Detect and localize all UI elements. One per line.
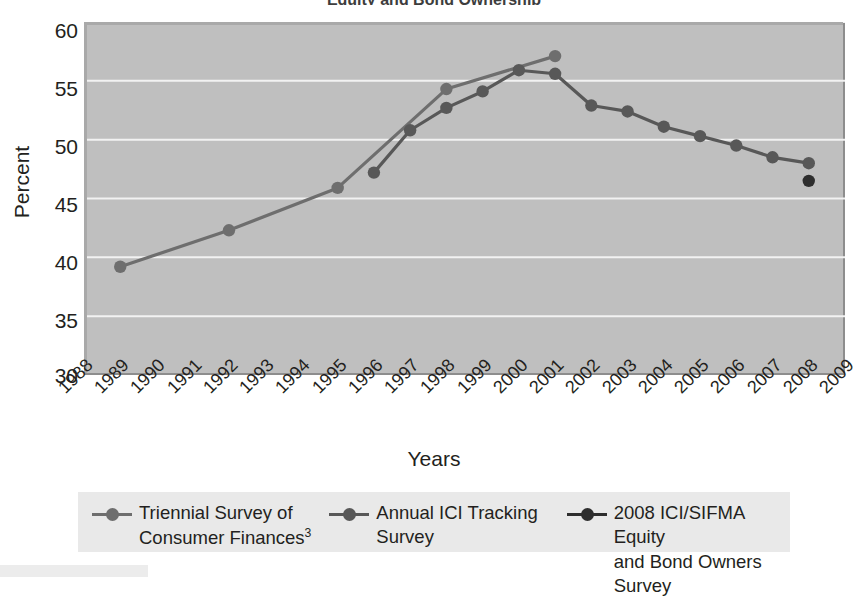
legend-dot-1: [343, 508, 356, 521]
data-point: [803, 157, 815, 169]
legend-label-2-line1: 2008 ICI/SIFMA Equity: [614, 502, 745, 547]
legend-marker-icon-1: [329, 503, 369, 525]
x-axis-title: Years: [0, 447, 868, 471]
data-point: [694, 130, 706, 142]
legend-dot-2: [581, 508, 594, 521]
plot-canvas: [84, 22, 845, 375]
data-point: [766, 151, 778, 163]
legend-item-triennial-survey[interactable]: Triennial Survey of Consumer Finances3: [78, 501, 315, 551]
legend-dot-0: [106, 508, 119, 521]
legend-label-1-line2: Survey: [376, 526, 434, 547]
x-axis: 1988198919901991199219931994199519961997…: [0, 378, 868, 444]
data-point: [223, 224, 235, 236]
legend-label-2-line2: and Bond Owners Survey: [614, 551, 762, 596]
y-tick-60: 60: [30, 20, 78, 41]
y-tick-55: 55: [30, 78, 78, 99]
chart-title: Equity and Bond Ownership: [0, 0, 868, 5]
data-point: [658, 121, 670, 133]
data-point: [331, 182, 343, 194]
data-point: [114, 261, 126, 273]
data-point: [549, 68, 561, 80]
y-axis-title: Percent: [10, 122, 34, 242]
y-axis: 60 55 50 45 40 35 30: [30, 0, 78, 577]
gridlines: [84, 22, 845, 316]
legend-label-1-line1: Annual ICI Tracking: [376, 502, 537, 523]
page-edge-artifact: [0, 565, 148, 577]
legend-label-0-line1: Triennial Survey of: [139, 502, 293, 523]
data-point: [368, 166, 380, 178]
y-tick-50: 50: [30, 136, 78, 157]
series-2: [803, 175, 815, 187]
legend-label-0-line2: Consumer Finances: [139, 528, 305, 549]
data-point: [513, 64, 525, 76]
series-layer: [114, 50, 815, 273]
legend-label-1: Annual ICI Tracking Survey: [376, 501, 537, 550]
y-tick-35: 35: [30, 310, 78, 331]
legend-marker-icon-0: [92, 503, 132, 525]
data-point: [621, 105, 633, 117]
legend-label-0-superscript: 3: [305, 526, 312, 540]
data-point: [476, 85, 488, 97]
data-point: [549, 50, 561, 62]
data-point: [730, 139, 742, 151]
plot-area: [84, 22, 845, 375]
legend-marker-icon-2: [567, 503, 607, 525]
data-point: [803, 175, 815, 187]
data-point: [440, 83, 452, 95]
chart-legend: Triennial Survey of Consumer Finances3 A…: [78, 492, 790, 552]
legend-item-ici-sifma-survey[interactable]: 2008 ICI/SIFMA Equity and Bond Owners Su…: [553, 501, 790, 599]
data-point: [404, 124, 416, 136]
legend-label-2: 2008 ICI/SIFMA Equity and Bond Owners Su…: [614, 501, 790, 599]
series-line-1: [374, 70, 809, 172]
legend-item-annual-ici-tracking-survey[interactable]: Annual ICI Tracking Survey: [315, 501, 552, 550]
y-tick-40: 40: [30, 252, 78, 273]
y-tick-45: 45: [30, 194, 78, 215]
legend-label-0: Triennial Survey of Consumer Finances3: [139, 501, 311, 551]
data-point: [585, 99, 597, 111]
data-point: [440, 102, 452, 114]
